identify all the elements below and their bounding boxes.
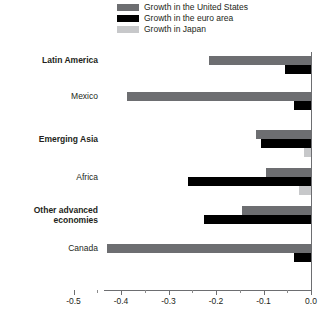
- bar: [188, 177, 312, 186]
- bar: [266, 168, 311, 177]
- chart-legend: Growth in the United States Growth in th…: [117, 2, 332, 35]
- category-label: Latin America: [0, 55, 98, 65]
- x-tick-label: -0.3: [149, 296, 189, 306]
- legend-item-united-states: Growth in the United States: [117, 2, 332, 12]
- bar: [294, 101, 311, 110]
- x-tick-label: 0.0: [291, 296, 331, 306]
- legend-label-japan: Growth in Japan: [144, 25, 206, 34]
- category-label: Canada: [0, 243, 98, 253]
- x-tick: [169, 290, 170, 295]
- x-tick: [264, 290, 265, 295]
- x-axis: -0.5-0.4-0.3-0.2-0.10.0: [0, 290, 332, 320]
- category-group: Latin America: [0, 56, 332, 85]
- category-group: Africa: [0, 168, 332, 197]
- category-group: Other advanced economies: [0, 206, 332, 235]
- bar: [261, 139, 311, 148]
- bar: [285, 65, 311, 74]
- x-tick: [216, 290, 217, 295]
- legend-label-euro-area: Growth in the euro area: [144, 14, 233, 23]
- x-tick: [74, 290, 75, 295]
- x-tick-minor: [145, 290, 146, 293]
- category-group: Canada: [0, 244, 332, 273]
- bar: [209, 56, 311, 65]
- x-tick-label: -0.4: [101, 296, 141, 306]
- plot-area: Latin AmericaMexicoEmerging AsiaAfricaOt…: [0, 52, 332, 292]
- legend-item-japan: Growth in Japan: [117, 24, 332, 34]
- bar: [204, 215, 311, 224]
- x-tick: [311, 290, 312, 295]
- legend-item-euro-area: Growth in the euro area: [117, 13, 332, 23]
- x-tick-minor: [97, 290, 98, 293]
- category-label: Emerging Asia: [0, 134, 98, 144]
- bar: [299, 186, 311, 195]
- category-label: Other advanced economies: [0, 205, 98, 225]
- x-tick-label: -0.2: [196, 296, 236, 306]
- bar: [304, 148, 311, 157]
- bar: [294, 253, 311, 262]
- x-tick-minor: [192, 290, 193, 293]
- bar: [256, 130, 311, 139]
- bar: [107, 244, 311, 253]
- legend-swatch-euro-area: [117, 15, 139, 22]
- x-tick: [121, 290, 122, 295]
- category-label: Mexico: [0, 91, 98, 101]
- x-tick-label: -0.5: [54, 296, 94, 306]
- x-tick-label: -0.1: [244, 296, 284, 306]
- category-group: Emerging Asia: [0, 130, 332, 159]
- bar: [242, 206, 311, 215]
- category-label: Africa: [0, 172, 98, 182]
- legend-label-united-states: Growth in the United States: [144, 3, 248, 12]
- category-group: Mexico: [0, 92, 332, 121]
- legend-swatch-united-states: [117, 4, 139, 11]
- x-tick-minor: [240, 290, 241, 293]
- legend-swatch-japan: [117, 26, 139, 33]
- chart-figure: Growth in the United States Growth in th…: [0, 0, 332, 320]
- x-tick-minor: [287, 290, 288, 293]
- bar: [127, 92, 311, 101]
